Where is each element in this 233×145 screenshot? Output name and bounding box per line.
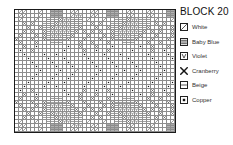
knitting-chart-page: BLOCK 20 WhiteBaby BlueVioletCranberryBe… — [0, 0, 233, 145]
legend-item-label: White — [192, 23, 207, 31]
legend-item-label: Violet — [192, 52, 207, 60]
pattern-grid — [15, 10, 175, 132]
legend-item-beige: Beige — [180, 78, 233, 93]
single-dash-icon — [180, 81, 188, 89]
legend-item-baby-blue: Baby Blue — [180, 35, 233, 50]
legend-item-copper: Copper — [180, 93, 233, 108]
legend-item-label: Beige — [192, 81, 207, 89]
legend-item-cranberry: Cranberry — [180, 64, 233, 79]
legend-list: WhiteBaby BlueVioletCranberryBeigeCopper — [180, 20, 233, 107]
letter-v-icon — [180, 52, 188, 60]
legend-item-white: White — [180, 20, 233, 35]
legend-item-label: Baby Blue — [192, 38, 219, 46]
pattern-chart — [14, 9, 176, 133]
chart-cell — [171, 128, 175, 132]
legend-item-label: Cranberry — [192, 67, 219, 75]
legend-item-label: Copper — [192, 96, 212, 104]
cross-x-icon — [180, 67, 188, 75]
filled-square-icon — [180, 96, 188, 104]
triple-bar-icon — [180, 38, 188, 46]
page-title: BLOCK 20 — [180, 6, 233, 17]
legend: BLOCK 20 WhiteBaby BlueVioletCranberryBe… — [180, 6, 233, 136]
diagonal-slash-icon — [180, 23, 188, 31]
legend-item-violet: Violet — [180, 49, 233, 64]
